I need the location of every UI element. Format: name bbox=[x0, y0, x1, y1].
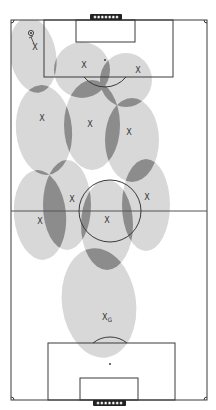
soccer-pitch: XXXXXXXXXXXG bbox=[0, 0, 216, 410]
player-marker: X bbox=[69, 195, 75, 204]
top-goal-area bbox=[76, 20, 135, 42]
player-marker: X bbox=[126, 128, 132, 137]
bottom-goal-area bbox=[80, 378, 138, 400]
player-marker: X bbox=[104, 216, 110, 225]
player-marker: X bbox=[81, 61, 87, 70]
player-marker: X bbox=[37, 217, 43, 226]
player-zone bbox=[4, 14, 62, 97]
player-marker: X bbox=[39, 114, 45, 123]
player-marker: X bbox=[144, 193, 150, 202]
penalty-spot bbox=[104, 59, 106, 61]
penalty-spot bbox=[109, 363, 111, 365]
coverage-zones bbox=[4, 14, 170, 363]
player-marker: X bbox=[135, 66, 141, 75]
player-marker: X bbox=[87, 120, 93, 129]
player-marker: X bbox=[32, 43, 38, 52]
